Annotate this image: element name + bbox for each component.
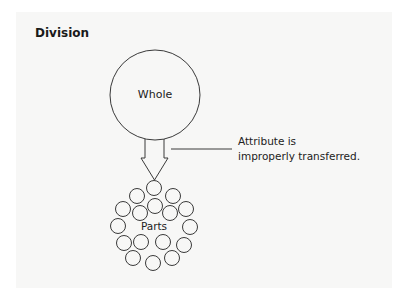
callout-line-1: Attribute is [238,134,360,149]
parts-label: Parts [141,220,167,232]
callout-line-2: improperly transferred. [238,149,360,164]
whole-node: Whole [110,50,200,140]
whole-label: Whole [138,88,173,101]
callout-text: Attribute is improperly transferred. [238,134,360,164]
down-arrow-icon [141,139,168,180]
